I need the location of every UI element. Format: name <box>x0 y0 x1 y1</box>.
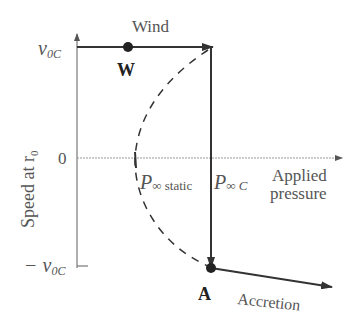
v0c-label: v0C <box>38 37 62 61</box>
p-static-tick <box>135 152 136 168</box>
y-axis-title: Speed at r0 <box>18 150 40 228</box>
point-a <box>206 263 216 273</box>
y-axis <box>77 34 88 268</box>
point-w <box>123 42 133 52</box>
zero-label: 0 <box>58 149 67 168</box>
accretion-branch-line <box>211 268 332 287</box>
point-a-label: A <box>198 284 211 304</box>
p-static-label: P∞ static <box>139 171 192 193</box>
x-axis-title-line1: Applied <box>272 166 327 185</box>
neg-v0c-label: − v0C <box>24 254 66 278</box>
accretion-label: Accretion <box>237 290 302 314</box>
point-w-label: W <box>117 60 135 80</box>
p-critical-label: P∞ C <box>213 171 248 193</box>
speed-pressure-diagram: Wind W A Accretion v0C 0 − v0C Speed at … <box>0 0 354 326</box>
x-axis-title-line2: pressure <box>270 184 327 203</box>
wind-label: Wind <box>132 17 170 36</box>
